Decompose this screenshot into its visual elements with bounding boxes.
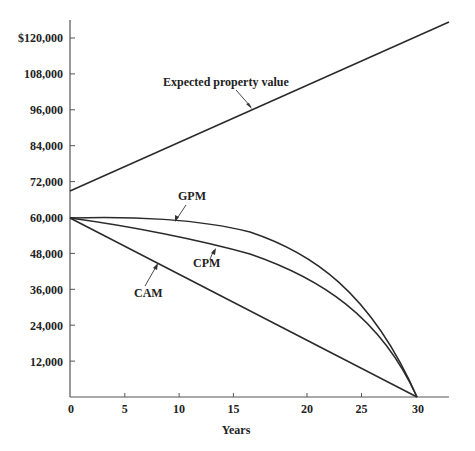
y-label-48000: 48,000 bbox=[30, 247, 63, 261]
annotation-gpm: GPM bbox=[175, 189, 206, 222]
series-cam bbox=[70, 218, 417, 397]
x-label-5: 5 bbox=[122, 402, 128, 416]
arrow-icon bbox=[211, 248, 216, 255]
x-label-20: 20 bbox=[301, 402, 313, 416]
series-expected-property-value bbox=[70, 22, 449, 191]
annotation-property-value: Expected property value bbox=[163, 75, 289, 109]
label-gpm: GPM bbox=[178, 189, 206, 203]
x-label-15: 15 bbox=[227, 402, 239, 416]
y-ticks bbox=[70, 38, 75, 361]
label-cpm: CPM bbox=[193, 256, 220, 270]
y-label-108000: 108,000 bbox=[24, 67, 63, 81]
x-label-25: 25 bbox=[356, 402, 368, 416]
y-tick-labels: 12,000 24,000 36,000 48,000 60,000 72,00… bbox=[18, 31, 63, 368]
x-label-0: 0 bbox=[68, 402, 74, 416]
line-chart: 12,000 24,000 36,000 48,000 60,000 72,00… bbox=[0, 0, 475, 451]
y-label-60000: 60,000 bbox=[30, 211, 63, 225]
y-label-36000: 36,000 bbox=[30, 283, 63, 297]
y-label-120000: $120,000 bbox=[18, 31, 63, 45]
y-label-72000: 72,000 bbox=[30, 175, 63, 189]
y-label-96000: 96,000 bbox=[30, 103, 63, 117]
label-cam: CAM bbox=[134, 286, 163, 300]
x-label-30: 30 bbox=[412, 402, 424, 416]
label-expected-property-value: Expected property value bbox=[163, 75, 289, 89]
annotation-cam: CAM bbox=[134, 263, 163, 300]
x-axis-title: Years bbox=[222, 423, 251, 437]
y-label-12000: 12,000 bbox=[30, 355, 63, 369]
arrow-icon bbox=[246, 103, 252, 109]
arrow-icon bbox=[153, 263, 158, 270]
x-tick-labels: 0 5 10 15 20 25 30 bbox=[68, 402, 424, 416]
y-label-24000: 24,000 bbox=[30, 319, 63, 333]
annotation-cpm: CPM bbox=[193, 248, 220, 270]
y-label-84000: 84,000 bbox=[30, 139, 63, 153]
x-label-10: 10 bbox=[173, 402, 185, 416]
